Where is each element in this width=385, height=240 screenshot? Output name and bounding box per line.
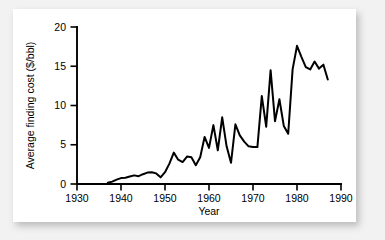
data-series-line bbox=[108, 46, 328, 183]
y-axis-ticks bbox=[71, 27, 78, 184]
x-axis-title: Year bbox=[198, 205, 220, 217]
x-tick-label-1980: 1980 bbox=[285, 192, 309, 204]
y-axis: 0 5 10 15 20 Average finding cost ($/bbl… bbox=[24, 21, 77, 190]
x-tick-label-1950: 1950 bbox=[153, 192, 177, 204]
y-tick-label-10: 10 bbox=[54, 99, 66, 111]
y-axis-tick-labels: 0 5 10 15 20 bbox=[54, 21, 66, 190]
x-tick-label-1940: 1940 bbox=[109, 192, 133, 204]
line-chart: 0 5 10 15 20 Average finding cost ($/bbl… bbox=[0, 0, 385, 240]
x-axis-tick-labels: 1930 1940 1950 1960 1970 1980 1990 bbox=[65, 192, 353, 204]
y-tick-label-15: 15 bbox=[54, 60, 66, 72]
x-axis-ticks bbox=[77, 184, 341, 191]
y-tick-label-5: 5 bbox=[60, 138, 66, 150]
x-tick-label-1990: 1990 bbox=[329, 192, 353, 204]
figure-root: 0 5 10 15 20 Average finding cost ($/bbl… bbox=[0, 0, 385, 240]
x-tick-label-1930: 1930 bbox=[65, 192, 89, 204]
y-tick-label-0: 0 bbox=[60, 178, 66, 190]
x-axis: 1930 1940 1950 1960 1970 1980 1990 Year bbox=[65, 184, 353, 217]
x-tick-label-1960: 1960 bbox=[197, 192, 221, 204]
y-axis-title: Average finding cost ($/bbl) bbox=[24, 42, 36, 170]
x-tick-label-1970: 1970 bbox=[241, 192, 265, 204]
y-tick-label-20: 20 bbox=[54, 21, 66, 33]
